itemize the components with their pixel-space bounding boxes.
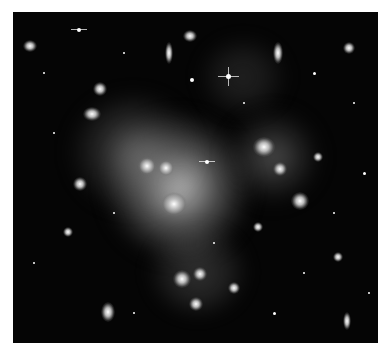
- star: [213, 242, 215, 244]
- star: [303, 272, 305, 274]
- galaxy: [273, 42, 283, 64]
- galaxy-cluster-image: [13, 12, 378, 343]
- galaxy: [333, 252, 343, 262]
- galaxy: [165, 42, 173, 64]
- galaxy: [291, 192, 309, 210]
- galaxy: [273, 162, 287, 176]
- galaxy: [183, 30, 197, 42]
- galaxy: [253, 222, 263, 232]
- star: [368, 292, 370, 294]
- cluster-glow-right: [228, 112, 318, 202]
- star: [43, 72, 45, 74]
- star: [123, 52, 125, 54]
- galaxy: [101, 302, 115, 322]
- galaxy: [73, 177, 87, 191]
- star: [53, 132, 55, 134]
- star: [313, 72, 316, 75]
- star: [243, 102, 245, 104]
- star: [273, 312, 276, 315]
- galaxy: [313, 152, 323, 162]
- star: [333, 212, 335, 214]
- star: [353, 102, 355, 104]
- galaxy: [343, 42, 355, 54]
- galaxy: [228, 282, 240, 294]
- star: [363, 172, 366, 175]
- star-spike: [71, 29, 87, 30]
- star: [190, 78, 194, 82]
- galaxy: [93, 82, 107, 96]
- galaxy: [343, 312, 351, 330]
- galaxy: [173, 270, 191, 288]
- galaxy: [189, 297, 203, 311]
- galaxy: [193, 267, 207, 281]
- galaxy: [83, 107, 101, 121]
- galaxy: [158, 160, 174, 176]
- galaxy: [253, 137, 275, 157]
- galaxy: [138, 157, 156, 175]
- star-spike: [228, 67, 229, 86]
- star: [133, 312, 135, 314]
- galaxy: [23, 40, 37, 52]
- galaxy: [161, 192, 187, 216]
- star: [113, 212, 115, 214]
- star: [33, 262, 35, 264]
- star-spike: [199, 161, 215, 162]
- galaxy: [63, 227, 73, 237]
